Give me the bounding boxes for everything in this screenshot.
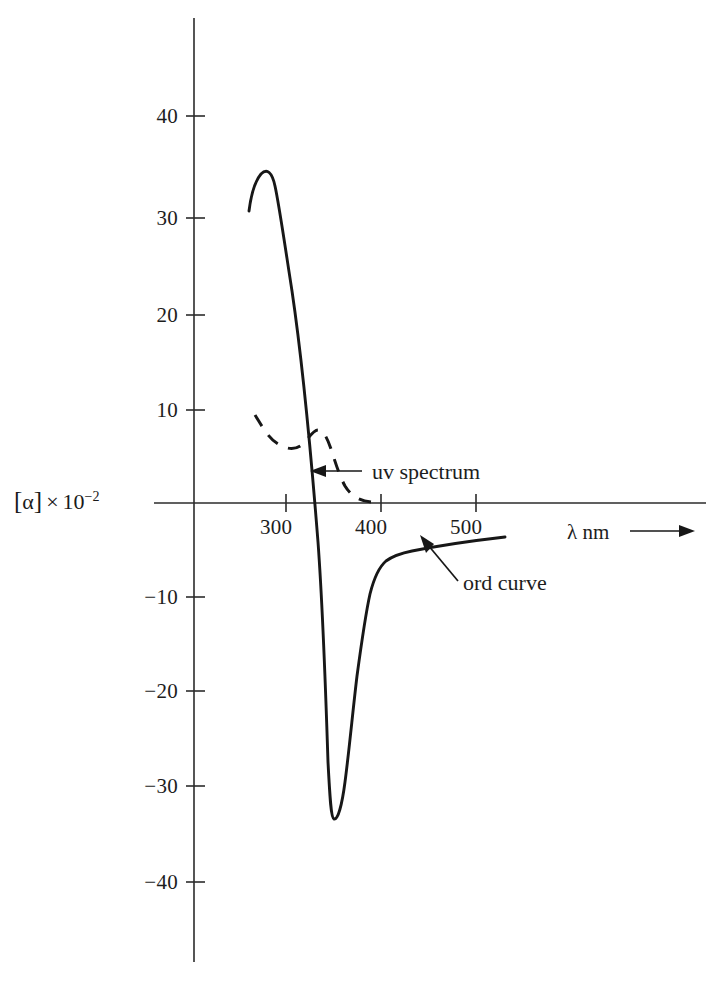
y-tick-label-neg30: −30 <box>100 774 178 799</box>
ord-curve-annotation-arrow <box>420 535 458 581</box>
x-axis-title: λ nm <box>567 519 609 545</box>
ord-curve-label: ord curve <box>463 570 547 596</box>
uv-spectrum-label: uv spectrum <box>372 459 480 485</box>
x-tick-label-400: 400 <box>355 515 387 540</box>
figure-root: 40 30 20 10 −10 −20 −30 −40 300 400 500 … <box>0 0 716 981</box>
y-tick-marks <box>186 116 205 882</box>
y-axis-title-alpha: α <box>22 489 34 514</box>
y-tick-label-neg40: −40 <box>100 870 178 895</box>
axes-group <box>154 18 706 962</box>
y-axis-title-base: 10 <box>63 489 85 514</box>
y-tick-label-20: 20 <box>108 303 178 328</box>
y-tick-label-neg20: −20 <box>100 679 178 704</box>
y-tick-label-10: 10 <box>108 398 178 423</box>
y-axis-title-close-bracket: ] <box>34 487 42 514</box>
chart-canvas <box>0 0 716 981</box>
lambda-axis-arrow <box>630 525 695 537</box>
ord-curve <box>249 171 505 819</box>
y-axis-title: [α]×10−2 <box>14 487 100 515</box>
x-tick-label-500: 500 <box>450 515 482 540</box>
y-tick-label-40: 40 <box>108 104 178 129</box>
x-tick-label-300: 300 <box>260 515 292 540</box>
y-tick-label-neg10: −10 <box>100 585 178 610</box>
y-axis-title-exponent: −2 <box>85 488 100 504</box>
y-axis-title-times: × <box>42 489 62 514</box>
y-tick-label-30: 30 <box>108 206 178 231</box>
x-axis-title-text: λ nm <box>567 520 609 544</box>
